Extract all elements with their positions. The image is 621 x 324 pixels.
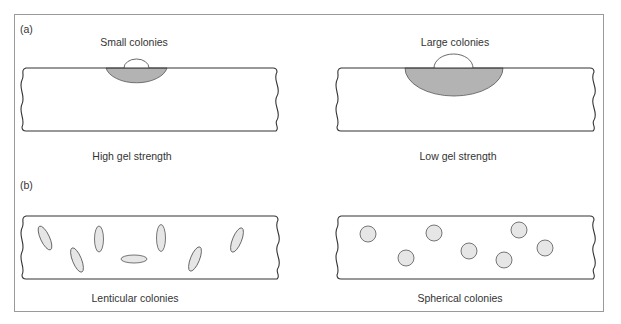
low-gel-strength-caption: Low gel strength [419, 150, 496, 162]
lenticular-colony [68, 246, 86, 273]
gel-strip-high-strength [21, 59, 279, 131]
panel-b-label: (b) [20, 179, 33, 191]
lenticular-colony [35, 224, 54, 251]
surface-colony-cap-large [434, 54, 473, 68]
spherical-colony [426, 225, 442, 241]
lenticular-colony [95, 226, 104, 252]
diagram-graphics [0, 0, 621, 324]
lenticular-colony [121, 255, 147, 263]
large-colonies-title: Large colonies [421, 36, 489, 48]
agar-colony-diagram: (a) Small colonies Large colonies High g… [0, 0, 621, 324]
high-gel-strength-caption: High gel strength [92, 150, 171, 162]
lenticular-colony [186, 245, 204, 272]
lenticular-colony [157, 225, 166, 252]
spherical-colony [461, 243, 477, 259]
spherical-colony [398, 250, 414, 266]
lenticular-colonies-caption: Lenticular colonies [92, 292, 179, 304]
panel-a-label: (a) [20, 23, 33, 35]
gel-strip-low-strength [336, 54, 596, 131]
spherical-colony [537, 240, 553, 256]
surface-colony-cap-small [124, 59, 149, 68]
small-colonies-title: Small colonies [100, 36, 168, 48]
lenticular-colony [228, 226, 246, 253]
spherical-colony [511, 222, 527, 238]
spherical-colonies-caption: Spherical colonies [417, 292, 502, 304]
gel-strip-spherical [336, 216, 596, 279]
spherical-colony [496, 252, 512, 268]
gel-strip-outline [21, 216, 280, 279]
spherical-colony [360, 226, 376, 242]
submerged-colony-small [106, 68, 167, 83]
submerged-colony-large [405, 68, 503, 96]
gel-strip-lenticular [21, 216, 280, 279]
